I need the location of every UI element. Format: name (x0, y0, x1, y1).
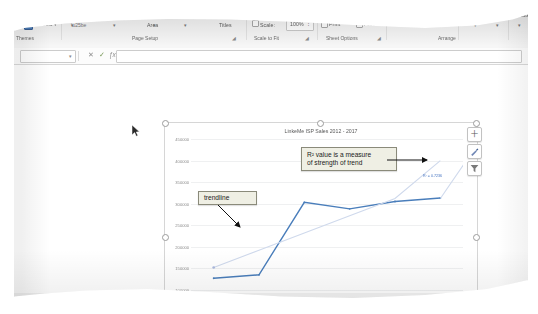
group-command[interactable]: Group (492, 12, 507, 18)
print-headings-label[interactable]: Print (364, 21, 375, 27)
y-tick-label: 50000 (178, 309, 189, 314)
trendline-r2-label[interactable]: R² = 0.7236 (423, 174, 442, 178)
r2-callout[interactable]: R² value is a measure of strength of tre… (301, 147, 397, 171)
y-tick-label: 100000 (175, 288, 189, 293)
y-tick-label: 400000 (175, 159, 189, 164)
y-tick-label: 150000 (175, 266, 189, 271)
data-point-marker[interactable] (394, 201, 396, 203)
chart-filters-button[interactable] (467, 161, 482, 176)
print-headings-checkbox[interactable] (356, 21, 363, 28)
resize-handle-e[interactable] (473, 234, 480, 241)
orientation-caret-icon[interactable]: ▾ (113, 22, 116, 28)
rotate-command[interactable]: Rotate (514, 12, 530, 18)
trendline-start-marker[interactable] (212, 266, 215, 269)
ribbon-group-sheet-options: Sheet Options (326, 35, 358, 41)
print-gridlines-label[interactable]: Print (329, 21, 340, 27)
formula-bar: ▾ ✕ ✓ ƒx (14, 48, 528, 65)
ribbon-group-page-setup: Page Setup (132, 35, 158, 41)
resize-handle-nw[interactable] (162, 120, 169, 127)
rotate-caret-icon[interactable]: ▾ (518, 22, 521, 28)
resize-handle-w[interactable] (162, 234, 169, 241)
trendline-callout-text: trendline (204, 194, 229, 201)
chart-elements-button[interactable]: ＋ (467, 127, 482, 142)
ribbon-separator (61, 12, 62, 40)
group-caret-icon[interactable]: ▾ (496, 22, 499, 28)
next-sheet-arrow-icon[interactable]: ▸ (36, 295, 39, 301)
scale-fit-dialog-launcher-icon[interactable]: ◢ (305, 35, 309, 41)
ribbon-group-scale-to-fit: Scale to Fit (254, 35, 279, 41)
y-tick-label: 450000 (175, 137, 189, 142)
data-point-marker[interactable] (349, 208, 351, 210)
send-backward-command[interactable]: Backward ▾ (420, 21, 448, 27)
worksheet-grid[interactable]: LinkeMe ISP Sales 2012 - 2017 450000 (14, 65, 528, 304)
gridline (191, 311, 463, 312)
ribbon-titles-command[interactable]: Titles (219, 22, 232, 28)
align-command[interactable]: Align (469, 12, 481, 18)
area-caret-icon[interactable]: ▾ (184, 22, 187, 28)
scanned-excel-sheet: Effects ▾ Margins Orientation Size Print… (14, 4, 528, 304)
ribbon-orientation-command[interactable]: Orientation (106, 12, 132, 18)
ribbon-print-area-command[interactable]: Print Area ▾ (175, 13, 203, 19)
scale-label: Scale: (260, 22, 275, 28)
data-point-marker[interactable] (258, 274, 260, 276)
confirm-formula-icon[interactable]: ✓ (99, 51, 105, 59)
prev-sheet-arrow-icon[interactable]: ◂ (24, 295, 27, 301)
sales-line-path[interactable] (214, 198, 441, 278)
y-tick-label: 300000 (175, 202, 189, 207)
chart-title[interactable]: LinkeMe ISP Sales 2012 - 2017 (165, 128, 477, 134)
pane-command[interactable]: Pane (444, 21, 457, 27)
plus-icon: ＋ (470, 130, 479, 139)
ribbon-effects-command[interactable]: Effects ▾ (36, 21, 57, 27)
ribbon-separator (386, 12, 387, 40)
themes-color-chip[interactable] (24, 21, 33, 30)
trendline-extension (440, 161, 463, 199)
ribbon-margins-command[interactable]: Margins (74, 13, 93, 19)
brush-icon (470, 147, 479, 156)
selection-pane-command[interactable]: Selection (438, 13, 460, 19)
formula-input[interactable] (116, 50, 522, 63)
data-point-marker[interactable] (303, 201, 305, 203)
name-box[interactable]: ▾ (20, 50, 76, 63)
mouse-cursor-icon (132, 125, 141, 137)
page-background: Effects ▾ Margins Orientation Size Print… (0, 0, 538, 314)
trendline-callout[interactable]: trendline (198, 191, 257, 205)
cancel-formula-icon[interactable]: ✕ (88, 51, 94, 59)
y-tick-label: 200000 (175, 245, 189, 250)
resize-handle-n[interactable] (317, 120, 324, 127)
resize-handle-ne[interactable] (473, 120, 480, 127)
y-tick-label: 250000 (175, 223, 189, 228)
funnel-icon (470, 164, 479, 173)
ribbon-size-command[interactable]: Size (150, 12, 161, 18)
ribbon-separator (317, 12, 318, 40)
name-box-caret-icon[interactable]: ▾ (69, 54, 72, 59)
width-icon[interactable] (252, 20, 259, 27)
ribbon-group-arrange: Arrange (438, 35, 456, 41)
scale-spinner-icon[interactable]: ⋮ (306, 20, 311, 26)
sheet-tab-sales-analysis[interactable]: Sales Analysis (100, 293, 132, 299)
r2-callout-line2: of strength of trend (307, 159, 391, 167)
trendline-path[interactable] (214, 161, 441, 268)
page-setup-dialog-launcher-icon[interactable]: ◢ (232, 35, 236, 41)
y-tick-label: 350000 (175, 180, 189, 185)
chart-object[interactable]: LinkeMe ISP Sales 2012 - 2017 450000 (164, 122, 478, 314)
r2-callout-line1: R² value is a measure (307, 151, 391, 159)
size-caret-icon[interactable]: ▾ (153, 22, 156, 28)
formula-bar-divider (78, 51, 79, 61)
sheet-tab-bar: ◂ ▸ Sales Analysis (14, 293, 528, 304)
data-point-marker[interactable] (213, 277, 215, 279)
ribbon-separator (246, 12, 247, 40)
ribbon-separator (458, 12, 459, 40)
ribbon-separator (508, 12, 509, 40)
margins-caret-icon[interactable]: ▾ (71, 22, 74, 28)
align-caret-icon[interactable]: ▾ (474, 22, 477, 28)
print-gridlines-checkbox[interactable] (321, 21, 328, 28)
sheet-options-dialog-launcher-icon[interactable]: ◢ (377, 35, 381, 41)
chart-styles-button[interactable] (467, 144, 482, 159)
ribbon-group-themes: Themes (16, 35, 34, 41)
insert-function-icon[interactable]: ƒx (109, 51, 116, 58)
bring-forward-command[interactable]: Forward ▾ (391, 21, 415, 27)
ribbon: Effects ▾ Margins Orientation Size Print… (14, 4, 528, 49)
scale-value[interactable]: 100% (290, 21, 304, 27)
